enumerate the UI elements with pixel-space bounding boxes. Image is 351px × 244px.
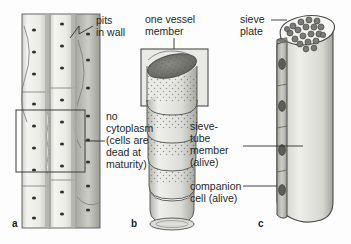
panel-letter-c: c	[258, 218, 264, 229]
label-pits-line1: pits	[96, 14, 112, 26]
label-sieve-tube-member-line4: (alive)	[190, 156, 219, 168]
xylem-column-right	[74, 14, 100, 228]
label-sieve-tube-member-line3: member	[190, 144, 229, 156]
label-one-vessel-member-line2: member	[145, 25, 184, 37]
label-sieve-plate-line2: plate	[240, 25, 263, 37]
label-no-cytoplasm-line2: cytoplasm	[106, 122, 153, 134]
label-sieve-plate-line1: sieve	[240, 13, 265, 25]
panel-a-xylem	[16, 14, 105, 228]
label-one-vessel-member-line1: one vessel	[145, 13, 195, 25]
label-companion-cell-line2: cell (alive)	[190, 192, 237, 204]
label-sieve-tube-member-line1: sieve-	[190, 120, 218, 132]
label-pits-line2: in wall	[96, 26, 125, 38]
label-companion-cell-line1: companion	[190, 180, 241, 192]
label-no-cytoplasm-line5: maturity)	[106, 158, 147, 170]
panel-letter-b: b	[131, 218, 137, 229]
label-no-cytoplasm-line3: (cells are	[106, 134, 149, 146]
label-sieve-tube-member-line2: tube	[190, 132, 210, 144]
label-no-cytoplasm-line1: no	[106, 110, 118, 122]
label-no-cytoplasm-line4: dead at	[106, 146, 141, 158]
panel-letter-a: a	[12, 218, 18, 229]
